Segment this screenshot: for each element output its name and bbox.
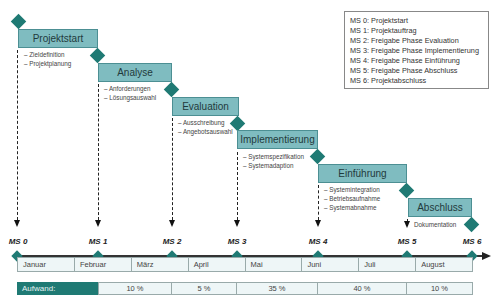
task-item: – Projektplanung <box>24 59 71 68</box>
month-cell: April <box>189 258 246 271</box>
task-item: – Zieldefinition <box>24 50 71 59</box>
milestone-diamond-icon <box>90 48 106 64</box>
milestone-dashed-line <box>98 84 99 220</box>
milestone-dashed-line <box>237 152 238 220</box>
task-item: – Systemintegration <box>324 185 380 194</box>
effort-row: Aufwand: 10 % 5 % 35 % 40 % 10 % <box>17 282 473 295</box>
milestone-label: MS 3 <box>228 237 247 246</box>
milestone-diamond-icon <box>11 14 27 30</box>
task-item: – Systemspezifikation <box>243 152 304 161</box>
phase-label: Einführung <box>338 168 386 179</box>
phase-evaluation: Evaluation <box>172 97 239 116</box>
phase-projektstart: Projektstart <box>18 29 98 48</box>
effort-cell: 35 % <box>237 282 318 295</box>
milestone-label: MS 0 <box>9 237 28 246</box>
month-cell: Juli <box>359 258 416 271</box>
legend-item: MS 3: Freigabe Phase Implementierung <box>350 46 483 56</box>
legend-item: MS 0: Projektstart <box>350 16 483 26</box>
task-item: – Angebotsauswahl <box>178 127 233 136</box>
effort-cell: 10 % <box>98 282 172 295</box>
task-list: – Anforderungen – Lösungsauswahl <box>104 84 156 102</box>
legend-item: MS 5: Freigabe Phase Abschluss <box>350 66 483 76</box>
task-list: – Systemintegration – Betriebsaufnahme –… <box>324 185 380 212</box>
arrow-right-icon <box>482 252 491 260</box>
arrow-down-icon <box>404 221 410 228</box>
month-cell: Februar <box>75 258 132 271</box>
effort-cell: 10 % <box>407 282 473 295</box>
phase-abschluss: Abschluss <box>408 198 472 217</box>
arrow-down-icon <box>95 220 101 227</box>
phase-label: Implementierung <box>240 134 314 145</box>
task-list: – Ausschreibung – Angebotsauswahl <box>178 118 233 136</box>
milestone-label: MS 6 <box>463 237 482 246</box>
arrow-down-icon <box>234 220 240 227</box>
arrow-down-icon <box>14 220 20 227</box>
task-list: – Systemspezifikation – Systemadaption <box>243 152 304 170</box>
milestone-label: MS 4 <box>309 237 328 246</box>
arrow-down-icon <box>315 220 321 227</box>
milestone-dashed-line <box>172 118 173 220</box>
effort-cell: 40 % <box>318 282 407 295</box>
task-item: – Systemadaption <box>243 161 304 170</box>
month-cell: Januar <box>18 258 75 271</box>
arrow-down-icon <box>169 220 175 227</box>
month-row: Januar Februar März April Mai Juni Juli … <box>17 257 473 272</box>
legend-item: MS 1: Projektauftrag <box>350 26 483 36</box>
task-item: Dokumentation <box>414 220 456 229</box>
phase-label: Abschluss <box>417 202 463 213</box>
legend-item: MS 6: Projektabschluss <box>350 76 483 86</box>
phase-label: Analyse <box>117 67 153 78</box>
legend-item: MS 2: Freigabe Phase Evaluation <box>350 36 483 46</box>
phase-implementierung: Implementierung <box>237 130 318 149</box>
task-list: Dokumentation <box>414 220 456 229</box>
milestone-diamond-icon <box>164 82 180 98</box>
task-item: – Anforderungen <box>104 84 156 93</box>
task-item: – Lösungsauswahl <box>104 93 156 102</box>
month-cell: März <box>132 258 189 271</box>
effort-label: Aufwand: <box>17 282 98 295</box>
milestone-label: MS 2 <box>163 237 182 246</box>
milestone-legend: MS 0: Projektstart MS 1: Projektauftrag … <box>344 11 489 89</box>
milestone-dashed-line <box>318 185 319 220</box>
milestone-diamond-icon <box>310 149 326 165</box>
month-cell: Mai <box>246 258 303 271</box>
task-item: – Systemabnahme <box>324 203 380 212</box>
phase-label: Projektstart <box>33 33 84 44</box>
month-cell: Juni <box>302 258 359 271</box>
milestone-label: MS 1 <box>89 237 108 246</box>
milestone-diamond-icon <box>464 217 480 233</box>
milestone-label: MS 5 <box>398 237 417 246</box>
milestone-diamond-icon <box>399 183 415 199</box>
legend-item: MS 4: Freigabe Phase Einführung <box>350 56 483 66</box>
phase-einfuehrung: Einführung <box>318 164 407 183</box>
task-list: – Zieldefinition – Projektplanung <box>24 50 71 68</box>
phase-analyse: Analyse <box>98 63 172 82</box>
milestone-dashed-line <box>17 50 18 220</box>
task-item: – Betriebsaufnahme <box>324 194 380 203</box>
effort-cell: 5 % <box>172 282 237 295</box>
task-item: – Ausschreibung <box>178 118 233 127</box>
month-cell: August <box>416 258 472 271</box>
phase-label: Evaluation <box>182 101 229 112</box>
